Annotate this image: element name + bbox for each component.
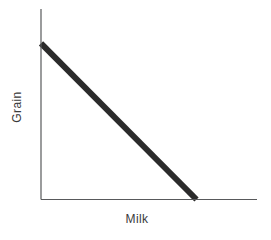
chart-figure: Grain Milk <box>0 0 271 240</box>
x-axis-label: Milk <box>126 212 149 226</box>
y-axis-label: Grain <box>10 91 24 122</box>
chart-canvas <box>0 0 271 240</box>
frontier-line <box>41 43 197 199</box>
